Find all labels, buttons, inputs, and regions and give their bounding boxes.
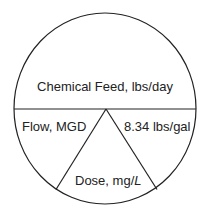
flow-label: Flow, MGD	[22, 120, 86, 133]
chemical-feed-label: Chemical Feed, lbs/day	[0, 80, 205, 93]
formula-wheel-diagram: Chemical Feed, lbs/day Flow, MGD 8.34 lb…	[0, 0, 205, 217]
dose-label-main: Dose, mg/	[75, 173, 134, 188]
dose-label-unit: L	[134, 173, 141, 188]
conversion-factor-label: 8.34 lbs/gal	[124, 120, 191, 133]
dose-label: Dose, mg/L	[75, 174, 141, 187]
